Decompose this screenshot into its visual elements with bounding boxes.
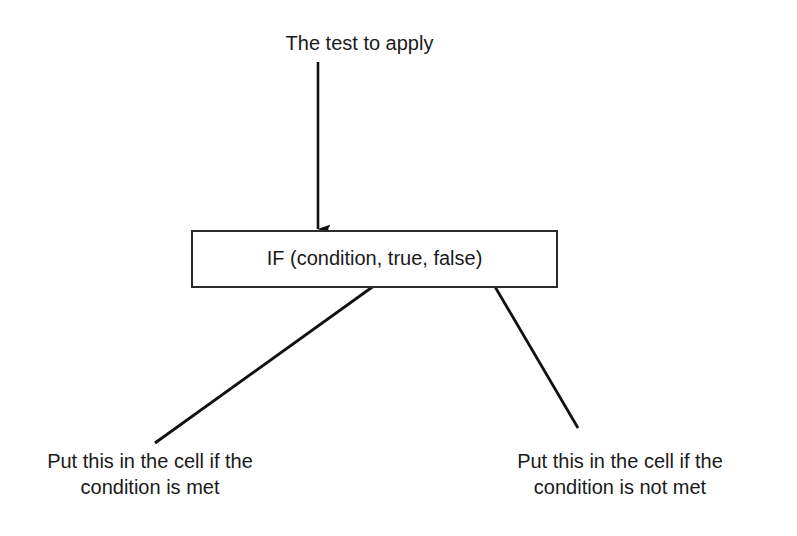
arrow-met-to-true [155,270,396,443]
formula-box: IF (condition, true, false) [191,230,558,288]
condition-not-met-caption-line1: Put this in the cell if the [470,448,770,474]
diagram-canvas: The test to apply IF (condition, true, f… [0,0,797,536]
condition-met-caption-line2: condition is met [14,474,286,500]
formula-text: IF (condition, true, false) [267,247,483,270]
condition-met-caption-line1: Put this in the cell if the [14,448,286,474]
condition-not-met-caption: Put this in the cell if the condition is… [470,448,770,500]
arrow-notmet-to-false [484,268,578,428]
condition-not-met-caption-line2: condition is not met [470,474,770,500]
condition-met-caption: Put this in the cell if the condition is… [14,448,286,500]
